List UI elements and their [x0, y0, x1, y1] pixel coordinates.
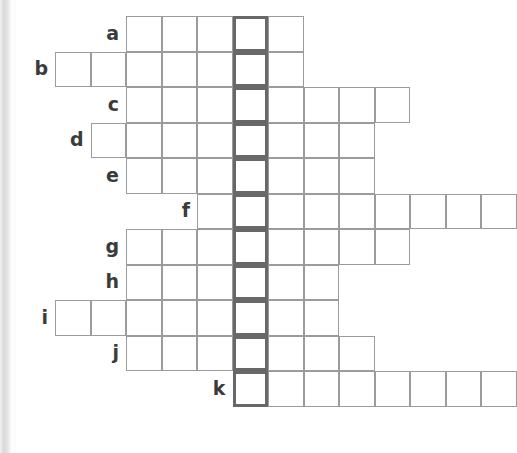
row-label-i: i [24, 308, 48, 327]
crossword-cell[interactable] [268, 229, 304, 265]
crossword-cell[interactable] [55, 52, 91, 88]
crossword-cell[interactable] [268, 371, 304, 407]
row-label-h: h [95, 272, 119, 291]
row-label-j: j [95, 343, 119, 362]
crossword-cell[interactable] [162, 336, 198, 372]
crossword-cell[interactable] [162, 87, 198, 123]
crossword-cell[interactable] [268, 265, 304, 301]
crossword-cell[interactable] [162, 123, 198, 159]
crossword-cell[interactable] [91, 52, 127, 88]
crossword-cell[interactable] [304, 265, 340, 301]
crossword-cell[interactable] [197, 123, 233, 159]
crossword-cell[interactable] [304, 87, 340, 123]
row-label-d: d [60, 130, 84, 149]
crossword-cell[interactable] [162, 16, 198, 52]
crossword-cell[interactable] [55, 300, 91, 336]
crossword-cell-highlighted[interactable] [233, 336, 269, 372]
crossword-cell[interactable] [91, 123, 127, 159]
crossword-cell[interactable] [339, 123, 375, 159]
crossword-cell[interactable] [304, 300, 340, 336]
crossword-cell[interactable] [339, 371, 375, 407]
crossword-cell-highlighted[interactable] [233, 16, 269, 52]
crossword-cell[interactable] [375, 229, 411, 265]
crossword-cell[interactable] [197, 300, 233, 336]
crossword-cell[interactable] [126, 123, 162, 159]
crossword-cell[interactable] [197, 158, 233, 194]
crossword-cell-highlighted[interactable] [233, 371, 269, 407]
crossword-cell[interactable] [126, 87, 162, 123]
crossword-cell[interactable] [304, 158, 340, 194]
crossword-cell-highlighted[interactable] [233, 87, 269, 123]
row-label-e: e [95, 166, 119, 185]
crossword-cell[interactable] [162, 300, 198, 336]
crossword-cell-highlighted[interactable] [233, 229, 269, 265]
crossword-cell[interactable] [268, 158, 304, 194]
crossword-cell-highlighted[interactable] [233, 158, 269, 194]
crossword-cell[interactable] [126, 265, 162, 301]
row-label-b: b [24, 59, 48, 78]
crossword-cell[interactable] [304, 336, 340, 372]
crossword-cell[interactable] [375, 194, 411, 230]
crossword-cell[interactable] [339, 194, 375, 230]
crossword-cell[interactable] [268, 194, 304, 230]
crossword-cell[interactable] [197, 265, 233, 301]
row-label-c: c [95, 95, 119, 114]
crossword-cell[interactable] [162, 158, 198, 194]
crossword-cell[interactable] [268, 16, 304, 52]
crossword-cell[interactable] [126, 300, 162, 336]
crossword-cell[interactable] [304, 371, 340, 407]
crossword-cell[interactable] [339, 158, 375, 194]
crossword-cell[interactable] [446, 194, 482, 230]
row-label-f: f [166, 201, 190, 220]
crossword-cell[interactable] [268, 123, 304, 159]
crossword-cell[interactable] [91, 300, 127, 336]
crossword-cell[interactable] [375, 87, 411, 123]
crossword-cell[interactable] [126, 52, 162, 88]
crossword-cell[interactable] [268, 336, 304, 372]
crossword-cell[interactable] [126, 229, 162, 265]
crossword-cell[interactable] [339, 336, 375, 372]
crossword-cell[interactable] [304, 123, 340, 159]
crossword-cell[interactable] [304, 229, 340, 265]
crossword-cell[interactable] [375, 371, 411, 407]
crossword-cell-highlighted[interactable] [233, 194, 269, 230]
crossword-cell[interactable] [126, 336, 162, 372]
crossword-cell[interactable] [481, 194, 517, 230]
crossword-cell[interactable] [197, 229, 233, 265]
crossword-cell[interactable] [339, 87, 375, 123]
crossword-cell[interactable] [197, 194, 233, 230]
crossword-cell[interactable] [339, 229, 375, 265]
crossword-cell[interactable] [410, 371, 446, 407]
crossword-cell-highlighted[interactable] [233, 52, 269, 88]
crossword-cell[interactable] [268, 52, 304, 88]
crossword-cell-highlighted[interactable] [233, 123, 269, 159]
crossword-cell[interactable] [126, 16, 162, 52]
crossword-cell[interactable] [481, 371, 517, 407]
crossword-cell[interactable] [197, 87, 233, 123]
crossword-cell[interactable] [197, 52, 233, 88]
crossword-cell[interactable] [410, 194, 446, 230]
crossword-cell-highlighted[interactable] [233, 300, 269, 336]
crossword-cell[interactable] [197, 16, 233, 52]
crossword-cell[interactable] [162, 265, 198, 301]
crossword-cell[interactable] [268, 87, 304, 123]
crossword-cell[interactable] [197, 336, 233, 372]
crossword-cell[interactable] [162, 229, 198, 265]
crossword-cell[interactable] [446, 371, 482, 407]
crossword-cell-highlighted[interactable] [233, 265, 269, 301]
crossword-cell[interactable] [304, 194, 340, 230]
crossword-cell[interactable] [162, 52, 198, 88]
row-label-g: g [95, 237, 119, 256]
row-label-a: a [95, 24, 119, 43]
crossword-cell[interactable] [268, 300, 304, 336]
row-label-k: k [202, 379, 226, 398]
crossword-cell[interactable] [126, 158, 162, 194]
